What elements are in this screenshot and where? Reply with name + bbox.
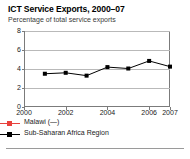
y-axis-tick-label: 2 [7,84,21,91]
series-data-point [147,59,151,63]
x-axis-tick [107,107,108,110]
legend-line-marker [0,122,20,125]
series-data-point [43,72,47,76]
x-axis-tick-label: 2000 [13,109,35,116]
x-axis-tick [170,107,171,110]
chart-subtitle: Percentage of total service exports [8,16,116,23]
chart-legend: Malawi (—)Sub-Saharan Africa Region [0,118,190,140]
chart-card: ICT Service Exports, 2000–07 Percentage … [0,0,190,159]
data-series-layer [24,31,170,107]
x-axis-tick-label: 2004 [96,109,118,116]
x-axis-tick [24,107,25,110]
x-axis-tick [66,107,67,110]
legend-line-marker [0,133,20,136]
series-data-point [85,74,89,78]
y-axis-tick-label: 6 [7,46,21,53]
series-data-point [105,65,109,69]
x-axis-tick-label: 2007 [159,109,181,116]
series-data-point [64,71,68,75]
legend-item[interactable]: Malawi (—) [0,118,190,129]
y-axis-tick-label: 4 [7,65,21,72]
x-axis-tick-label: 2002 [55,109,77,116]
legend-square-marker [7,121,12,126]
legend-square-marker [7,132,12,137]
legend-item-label: Malawi (—) [24,118,59,125]
series-data-point [126,67,130,71]
legend-item[interactable]: Sub-Saharan Africa Region [0,129,190,140]
legend-item-label: Sub-Saharan Africa Region [24,129,109,136]
x-axis-tick-label: 2006 [138,109,160,116]
chart-title: ICT Service Exports, 2000–07 [8,4,125,14]
y-axis-tick-label: 8 [7,27,21,34]
footer-divider [6,148,184,149]
series-data-point [168,65,172,69]
x-axis-tick [149,107,150,110]
